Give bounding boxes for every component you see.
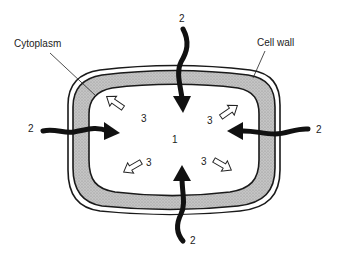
pressure-label-bottom-left: 3	[146, 157, 152, 168]
inflow-label-bottom: 2	[190, 235, 196, 246]
center-marker: 1	[172, 134, 178, 145]
cell-wall-label: Cell wall	[257, 37, 294, 48]
inflow-label-right: 2	[316, 124, 322, 135]
inflow-label-left: 2	[28, 123, 34, 134]
cytoplasm-label: Cytoplasm	[14, 38, 61, 49]
pressure-label-bottom-right: 3	[201, 156, 207, 167]
plant-cell-osmosis-diagram: Cytoplasm Cell wall 2 2 2 2 3 3 3 3	[0, 0, 340, 258]
pressure-label-top-right: 3	[207, 115, 213, 126]
inflow-label-top: 2	[179, 13, 185, 24]
pressure-label-top-left: 3	[141, 113, 147, 124]
